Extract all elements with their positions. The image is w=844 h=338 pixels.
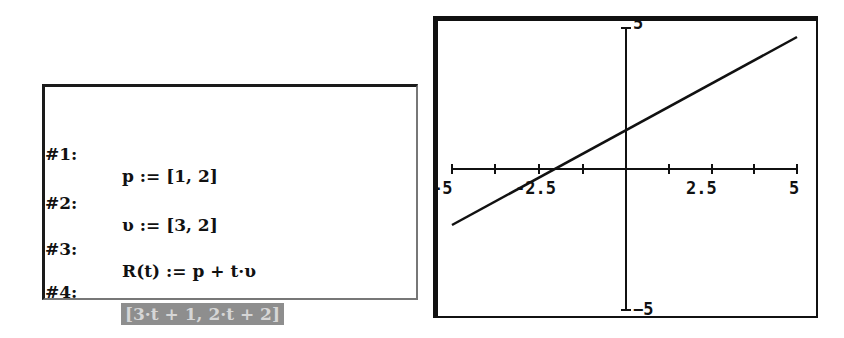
expression-row-2[interactable]: #2: υ := [3, 2] xyxy=(45,170,415,192)
x-axis xyxy=(452,164,797,174)
x-tick-label-max: 5 xyxy=(789,180,799,197)
expression-row-3[interactable]: #3: R(t) := p + t·υ xyxy=(45,216,415,238)
plot-window[interactable]: -5 -2.5 2.5 5 5 −5 xyxy=(433,16,818,318)
expression-row-1[interactable]: #1: p := [1, 2] xyxy=(45,121,415,143)
x-tick-label-min: -5 xyxy=(432,180,452,197)
expression-label: #4: xyxy=(45,281,105,303)
x-tick-label-pos: 2.5 xyxy=(686,180,717,197)
algebra-window[interactable]: #1: p := [1, 2] #2: υ := [3, 2] #3: R(t)… xyxy=(42,84,418,300)
plot-canvas xyxy=(438,21,816,316)
y-tick-label-min: −5 xyxy=(633,301,653,318)
expression-label: #3: xyxy=(45,238,105,260)
expression-label: #2: xyxy=(45,192,105,214)
y-tick-label-max: 5 xyxy=(633,15,643,32)
expression-row-4-selected[interactable]: #4: [3·t + 1, 2·t + 2] xyxy=(45,259,415,281)
expression-text-highlighted: [3·t + 1, 2·t + 2] xyxy=(121,303,284,325)
x-tick-label-neg: -2.5 xyxy=(515,180,556,197)
expression-label: #1: xyxy=(45,143,105,165)
plotted-line xyxy=(452,37,797,225)
